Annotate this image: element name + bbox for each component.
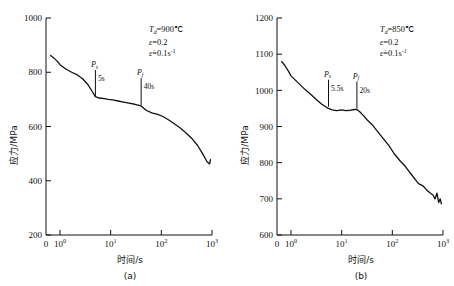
marker-time-b-0: 5.5s [331,84,343,93]
y-tick-label-a-200: 200 [29,230,43,240]
panel-b-x-ticks: 0100101102103 [275,230,449,249]
marker-label-b-1: Pf [352,72,361,82]
condition-strain-rate-a: ε̇=0.1s-1 [149,48,176,58]
panel-a-y-ticks: 2004006008001000 [24,13,51,240]
marker-label-a-0: Ps [90,60,98,70]
condition-strain-rate-b: ε̇=0.1s-1 [380,48,407,58]
panel-b-curve-group [282,61,442,204]
y-axis-title-b: 应力/MPa [239,125,250,164]
x-tick-label-b-1e2: 102 [386,237,398,249]
panel-b: 600700800900100011001200 0100101102103 P… [227,0,454,286]
condition-strain-b: ε=0.2 [380,38,399,47]
stress-curve-a [51,55,211,163]
axis-lines-b [277,18,443,235]
y-tick-label-b-700: 700 [260,194,274,204]
condition-temperature-b: Td=850℃ [380,25,414,35]
axis-lines-a [46,18,212,235]
panel-a-x-ticks: 0100101102103 [44,230,218,249]
x-axis-title-b: 时间/s [348,254,374,265]
y-tick-label-b-1100: 1100 [255,49,273,59]
y-tick-label-a-600: 600 [29,122,43,132]
x-tick-label-b-1e0: 100 [285,237,297,249]
x-tick-label-a-1e2: 102 [155,237,167,249]
panel-b-y-ticks: 600700800900100011001200 [255,13,282,240]
y-tick-label-b-800: 800 [260,158,274,168]
conditions-block-b: Td=850℃ ε=0.2 ε̇=0.1s-1 [380,25,414,58]
y-tick-label-a-1000: 1000 [24,13,43,23]
panel-b-axes [277,18,443,235]
panel-a: 2004006008001000 0100101102103 Ps5sPf40s… [0,0,227,286]
marker-time-a-1: 40s [144,82,155,91]
panel-a-curve-group [51,55,211,163]
marker-time-b-1: 20s [359,86,370,95]
y-tick-label-b-600: 600 [260,230,274,240]
x-axis-title-a: 时间/s [117,254,143,265]
marker-label-a-1: Pf [136,68,145,78]
y-tick-label-b-900: 900 [260,122,274,132]
x-tick-label-a-1e1: 101 [105,237,117,249]
x-tick-label-a-1e3: 103 [206,237,218,249]
panel-b-chart: 600700800900100011001200 0100101102103 P… [227,0,454,286]
figure-container: 2004006008001000 0100101102103 Ps5sPf40s… [0,0,454,286]
x-tick-label-b-1e3: 103 [437,237,449,249]
marker-label-b-0: Ps [323,70,331,80]
x-tick-label-a-0: 0 [44,239,49,249]
y-tick-label-a-400: 400 [29,176,43,186]
x-tick-label-b-0: 0 [275,239,280,249]
panel-caption-b: (b) [355,271,368,281]
y-tick-label-b-1000: 1000 [255,86,274,96]
panel-caption-a: (a) [124,271,137,281]
marker-time-a-0: 5s [98,74,105,83]
panel-b-markers: Ps5.5sPf20s [323,70,370,109]
conditions-block-a: Td=900℃ ε=0.2 ε̇=0.1s-1 [149,25,183,58]
x-tick-label-b-1e1: 101 [336,237,348,249]
condition-temperature-a: Td=900℃ [149,25,183,35]
y-axis-title-a: 应力/MPa [8,125,19,164]
stress-curve-b [282,61,442,204]
y-tick-label-b-1200: 1200 [255,13,274,23]
condition-strain-a: ε=0.2 [149,38,168,47]
panel-a-axes [46,18,212,235]
panel-a-chart: 2004006008001000 0100101102103 Ps5sPf40s… [0,0,227,286]
y-tick-label-a-800: 800 [29,67,43,77]
x-tick-label-a-1e0: 100 [54,237,66,249]
